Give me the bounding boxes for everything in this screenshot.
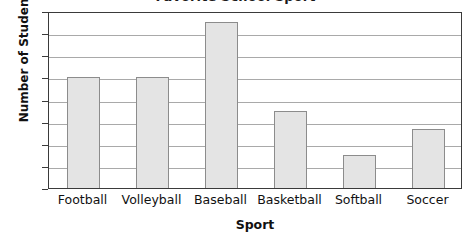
x-tick-label: Soccer xyxy=(406,192,448,207)
y-tick-mark xyxy=(42,145,48,146)
gridline xyxy=(49,35,461,36)
x-tick-label: Softball xyxy=(335,192,382,207)
y-tick-mark xyxy=(42,123,48,124)
y-tick-mark xyxy=(42,101,48,102)
bar-chart: Favorite School Sport Number of Students… xyxy=(0,0,471,237)
y-tick-mark xyxy=(42,78,48,79)
plot-area xyxy=(48,12,462,189)
chart-title: Favorite School Sport xyxy=(0,0,471,4)
y-tick-mark xyxy=(42,12,48,13)
bar xyxy=(343,155,376,188)
x-tick-label: Volleyball xyxy=(122,192,182,207)
y-tick-mark xyxy=(42,167,48,168)
gridline xyxy=(49,124,461,125)
gridline xyxy=(49,57,461,58)
bar xyxy=(136,77,169,188)
bar xyxy=(67,77,100,188)
bar xyxy=(274,111,307,188)
y-tick-mark xyxy=(42,56,48,57)
x-tick-label: Football xyxy=(58,192,107,207)
bar xyxy=(412,129,445,188)
gridline xyxy=(49,146,461,147)
x-axis-title: Sport xyxy=(48,217,462,232)
gridline xyxy=(49,79,461,80)
bar xyxy=(205,22,238,188)
y-tick-mark xyxy=(42,34,48,35)
y-tick-mark xyxy=(42,189,48,190)
y-axis-title: Number of Students xyxy=(17,0,31,129)
x-tick-label: Baseball xyxy=(194,192,247,207)
gridline xyxy=(49,168,461,169)
x-tick-label: Basketball xyxy=(257,192,322,207)
gridline xyxy=(49,102,461,103)
